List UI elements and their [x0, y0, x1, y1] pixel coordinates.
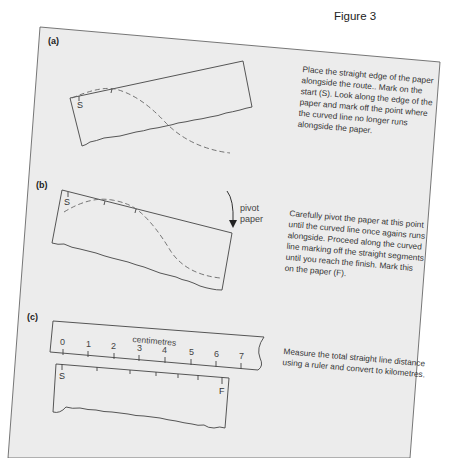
ruler-tick-0: 0 [60, 337, 65, 347]
panel-label-b: (b) [36, 180, 48, 190]
start-mark-c: S [59, 371, 65, 381]
start-mark-a: S [77, 100, 83, 110]
figure-3-diagram: Figure 3 (a) (b) (c) S S S F pivot paper… [0, 0, 454, 458]
finish-mark-c: F [219, 386, 225, 396]
pivot-paper-label: pivot paper [240, 203, 263, 225]
ruler-tick-2: 2 [111, 341, 116, 351]
panel-b-description: Carefully pivot the paper at this point … [284, 208, 439, 287]
ruler-tick-7: 7 [239, 351, 244, 361]
panel-a-description: Place the straight edge of the paper alo… [297, 64, 452, 143]
ruler-tick-1: 1 [86, 339, 91, 349]
ruler-tick-6: 6 [214, 349, 219, 359]
ruler-tick-4: 4 [162, 345, 167, 355]
ruler-tick-5: 5 [189, 347, 194, 357]
ruler-tick-3: 3 [137, 343, 142, 353]
panel-label-a: (a) [48, 36, 59, 46]
figure-title: Figure 3 [334, 10, 376, 22]
panel-label-c: (c) [27, 312, 38, 322]
start-mark-b: S [64, 197, 70, 207]
